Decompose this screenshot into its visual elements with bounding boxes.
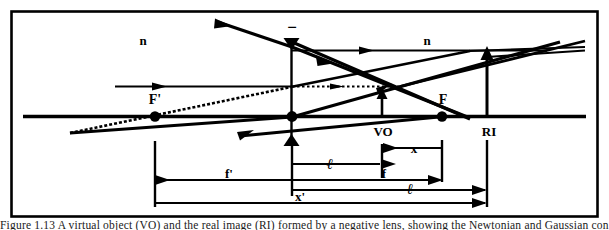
dimension-label-ell: ℓ [327, 156, 333, 172]
optics-figure: x ℓ f f' ℓ x' n n − F' F VO RI Figure 1.… [0, 0, 609, 230]
figure-caption: Figure 1.13 A virtual object (VO) and th… [0, 219, 609, 230]
back-focal-point-label: F [439, 92, 448, 107]
dimension-label-x: x [411, 141, 418, 156]
refractive-index-label-right: n [423, 33, 431, 48]
front-focal-point-label: F' [149, 92, 161, 107]
dimension-label-ell-prime: ℓ [407, 181, 413, 197]
dimension-label-f: f [382, 166, 387, 181]
lens-vertex-dot [287, 111, 298, 122]
back-focal-point-dot [437, 111, 447, 121]
ray-diagram-canvas: x ℓ f f' ℓ x' n n − F' F VO RI [0, 0, 609, 230]
dimension-label-f-prime: f' [225, 166, 233, 181]
real-image-label: RI [482, 124, 496, 139]
refractive-index-label-left: n [139, 33, 147, 48]
front-focal-point-dot [150, 111, 160, 121]
dimension-label-x-prime: x' [295, 189, 305, 204]
lens-negative-sign-label: − [287, 18, 297, 37]
virtual-object-label: VO [373, 124, 392, 139]
